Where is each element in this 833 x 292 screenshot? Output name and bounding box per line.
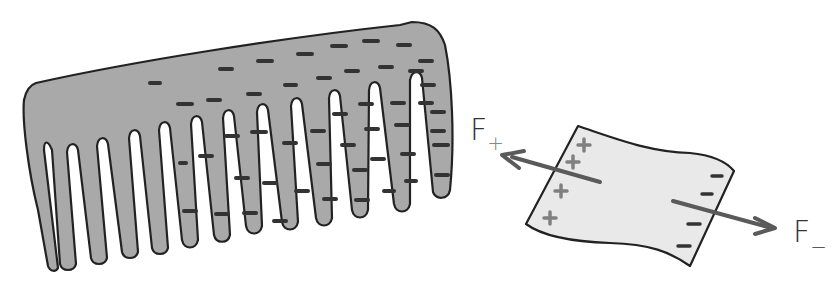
force-subscript: − [810,235,827,259]
force-symbol: F [793,214,810,249]
comb [24,22,453,271]
paper-sheet [526,126,734,266]
force-subscript: + [487,131,504,155]
force-label-plus: F+ [470,112,504,147]
comb-body [24,22,453,271]
force-label-minus: F− [793,214,827,249]
diagram-canvas: F+ F− [0,0,833,292]
diagram-svg [0,0,833,292]
force-symbol: F [470,112,487,147]
paper [526,126,734,266]
